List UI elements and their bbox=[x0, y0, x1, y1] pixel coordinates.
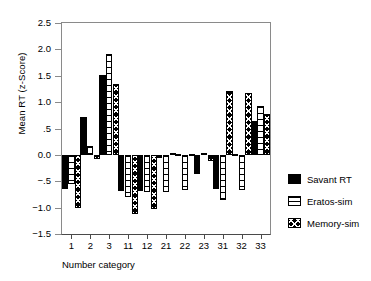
y-axis-tick: −.5 bbox=[55, 181, 61, 182]
bar bbox=[257, 106, 263, 155]
bar-layer bbox=[62, 23, 270, 234]
bar bbox=[264, 114, 270, 155]
x-axis-title: Number category bbox=[62, 259, 135, 270]
bar bbox=[182, 155, 188, 190]
x-axis-tick bbox=[71, 234, 72, 239]
bar bbox=[163, 155, 169, 192]
y-axis-tick-label: 1.0 bbox=[17, 96, 51, 107]
y-axis-tick-label: .5 bbox=[17, 123, 51, 134]
bar bbox=[80, 117, 86, 155]
bar bbox=[226, 91, 232, 155]
y-axis-tick-label: 0.0 bbox=[17, 149, 51, 160]
bar bbox=[125, 155, 131, 197]
bar bbox=[137, 155, 143, 191]
y-axis-tick-label: 2.0 bbox=[17, 43, 51, 54]
x-axis-tick bbox=[204, 234, 205, 239]
x-axis-tick bbox=[90, 234, 91, 239]
y-axis-tick-label: −.5 bbox=[17, 175, 51, 186]
x-axis-tick bbox=[109, 234, 110, 239]
bar bbox=[175, 154, 181, 156]
bar bbox=[232, 154, 238, 156]
bar bbox=[239, 155, 245, 190]
y-axis-tick: 1.5 bbox=[55, 76, 61, 77]
bar bbox=[151, 155, 157, 209]
bar bbox=[251, 121, 257, 155]
bar bbox=[106, 54, 112, 155]
legend-swatch bbox=[288, 196, 301, 206]
x-axis-tick bbox=[242, 234, 243, 239]
plot-area: 2.52.01.51.0.50.0−.5−1.0−1.5123111221222… bbox=[61, 22, 271, 235]
bar bbox=[75, 155, 81, 208]
x-axis-tick bbox=[223, 234, 224, 239]
y-axis-tick: −1.0 bbox=[55, 208, 61, 209]
x-axis-tick bbox=[185, 234, 186, 239]
bar bbox=[220, 155, 226, 200]
y-axis-tick-label: 2.5 bbox=[17, 17, 51, 28]
x-axis-tick bbox=[147, 234, 148, 239]
bar bbox=[201, 153, 207, 155]
bar bbox=[87, 146, 93, 155]
x-axis-tick bbox=[261, 234, 262, 239]
bar bbox=[99, 75, 105, 155]
bar bbox=[144, 155, 150, 192]
bar bbox=[68, 155, 74, 184]
x-axis-tick bbox=[128, 234, 129, 239]
y-axis-tick: 2.5 bbox=[55, 23, 61, 24]
y-axis-tick-label: 1.5 bbox=[17, 70, 51, 81]
legend-item: Memory-sim bbox=[288, 212, 359, 234]
bar bbox=[156, 155, 162, 158]
bar bbox=[62, 155, 68, 189]
legend-label: Savant RT bbox=[307, 174, 352, 185]
chart-legend: Savant RTEratos-simMemory-sim bbox=[288, 168, 359, 234]
y-axis-tick: 0.0 bbox=[55, 155, 61, 156]
legend-swatch bbox=[288, 174, 301, 184]
y-axis-tick: 1.0 bbox=[55, 102, 61, 103]
legend-label: Memory-sim bbox=[307, 218, 359, 229]
y-axis-tick-label: −1.5 bbox=[17, 228, 51, 239]
y-axis-tick: −1.5 bbox=[55, 234, 61, 235]
y-axis-tick: 2.0 bbox=[55, 49, 61, 50]
legend-item: Eratos-sim bbox=[288, 190, 359, 212]
chart-figure: Mean RT (z-Score) 2.52.01.51.0.50.0−.5−1… bbox=[0, 0, 371, 281]
x-axis-tick-label: 33 bbox=[248, 240, 274, 251]
bar bbox=[194, 155, 200, 175]
y-axis-tick: .5 bbox=[55, 129, 61, 130]
legend-swatch bbox=[288, 218, 301, 228]
bar bbox=[118, 155, 124, 191]
bar bbox=[94, 155, 100, 159]
y-axis-tick-label: −1.0 bbox=[17, 202, 51, 213]
bar bbox=[113, 84, 119, 155]
legend-label: Eratos-sim bbox=[307, 196, 352, 207]
bar bbox=[213, 155, 219, 189]
x-axis-tick bbox=[166, 234, 167, 239]
legend-item: Savant RT bbox=[288, 168, 359, 190]
